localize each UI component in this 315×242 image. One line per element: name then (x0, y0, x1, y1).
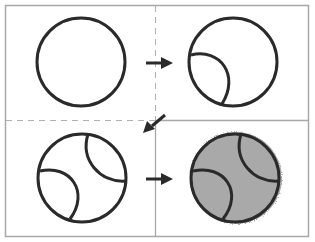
ball-outline (37, 18, 125, 106)
ball-outline (38, 134, 126, 222)
tennis-ball-steps-diagram (0, 0, 315, 242)
arrow-right-icon (146, 57, 173, 69)
ball-outline (189, 18, 277, 106)
panel-step-3 (38, 134, 126, 222)
panel-step-4 (190, 132, 282, 224)
ball-seam-lower-left (40, 170, 78, 219)
arrow-right-icon (146, 173, 173, 185)
arrow-down-left-icon (143, 115, 165, 133)
ball-seam-lower-left (191, 54, 229, 104)
panel-step-1 (37, 18, 125, 106)
panel-step-2 (189, 18, 277, 106)
